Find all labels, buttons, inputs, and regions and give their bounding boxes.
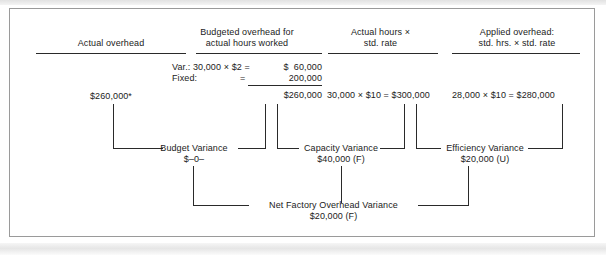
net-variance-center-drop: [341, 166, 342, 203]
page-edge-top: [0, 0, 606, 5]
budgeted-overhead-total: $260,000: [246, 90, 322, 101]
budgeted-fixed-amount: 200,000: [246, 73, 322, 84]
column-heading-actual-overhead: Actual overhead: [36, 38, 186, 49]
budget-variance-left-drop: [113, 104, 114, 149]
capacity-variance-amount: $40,000 (F): [295, 154, 387, 165]
budgeted-variable-amount: $ 60,000: [246, 62, 322, 73]
column-heading-applied-overhead-line1: Applied overhead:: [447, 27, 587, 38]
actual-hours-calculation: 30,000 × $10 = $300,000: [327, 90, 430, 101]
efficiency-variance-right-drop: [562, 104, 563, 149]
budgeted-total-rule: [248, 85, 322, 86]
net-factory-overhead-variance-label: Net Factory Overhead Variance: [252, 200, 415, 211]
column-rule-applied-overhead: [452, 53, 580, 54]
net-variance-left-drop: [193, 166, 194, 206]
capacity-variance-left-drop: [277, 104, 278, 149]
column-heading-actual-hours-line1: Actual hours ×: [313, 27, 448, 38]
page-edge-bottom: [0, 243, 606, 255]
net-variance-right-drop: [468, 166, 469, 206]
efficiency-variance-right-arm: [528, 148, 563, 149]
column-rule-budgeted-overhead: [196, 53, 322, 54]
efficiency-variance-amount: $20,000 (U): [437, 154, 533, 165]
budget-variance-right-drop: [265, 104, 266, 149]
efficiency-variance-left-drop: [416, 104, 417, 149]
net-variance-left-arm: [193, 205, 249, 206]
figure-canvas: Actual overhead Budgeted overhead for ac…: [0, 0, 606, 255]
budgeted-fixed-equals: =: [240, 73, 245, 84]
column-heading-budgeted-overhead-line1: Budgeted overhead for: [172, 27, 322, 38]
budget-variance-amount: $–0–: [139, 154, 249, 165]
value-actual-overhead: $260,000*: [58, 91, 164, 102]
budgeted-fixed-label: Fixed:: [172, 73, 197, 84]
net-factory-overhead-variance-amount: $20,000 (F): [252, 211, 415, 222]
column-rule-actual-overhead: [36, 53, 186, 54]
budgeted-variable-label: Var.: 30,000 × $2 =: [172, 62, 250, 73]
column-heading-actual-hours-line2: std. rate: [313, 38, 448, 49]
applied-overhead-calculation: 28,000 × $10 = $280,000: [452, 90, 555, 101]
budget-variance-label: Budget Variance: [139, 143, 249, 154]
capacity-variance-label: Capacity Variance: [295, 143, 387, 154]
column-heading-budgeted-overhead-line2: actual hours worked: [172, 38, 322, 49]
column-rule-actual-hours: [328, 53, 438, 54]
efficiency-variance-label: Efficiency Variance: [437, 143, 533, 154]
net-variance-right-arm: [418, 205, 469, 206]
capacity-variance-right-drop: [404, 104, 405, 149]
column-heading-applied-overhead-line2: std. hrs. × std. rate: [447, 38, 587, 49]
